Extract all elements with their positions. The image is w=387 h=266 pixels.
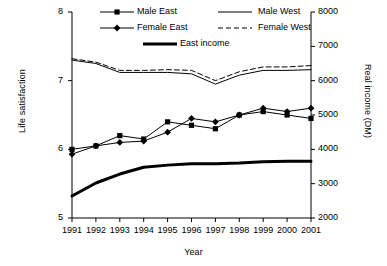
legend-label-male-east: Male East: [137, 6, 177, 16]
data-point-square: [308, 116, 313, 121]
y-tick-label-right: 4000: [318, 143, 362, 153]
y-tick-label-right: 6000: [318, 75, 362, 85]
legend-label-male-west: Male West: [258, 6, 300, 16]
data-point-square: [117, 133, 122, 138]
legend-label-female-east: Female East: [137, 22, 188, 32]
data-point-square: [189, 123, 194, 128]
data-point-square: [165, 119, 170, 124]
y-tick-label-right: 3000: [318, 178, 362, 188]
series-line-female-west: [72, 59, 311, 81]
y-tick-label-right: 8000: [318, 6, 362, 16]
x-tick-label: 2001: [294, 225, 328, 235]
data-point-diamond: [188, 115, 195, 122]
data-point-square: [213, 126, 218, 131]
series-line-male-west: [72, 60, 311, 84]
y-tick-label-left: 6: [23, 143, 63, 153]
y-tick-label-right: 5000: [318, 109, 362, 119]
legend-label-east-income: East income: [180, 38, 230, 48]
y-tick-label-left: 8: [23, 6, 63, 16]
data-point-diamond: [114, 25, 121, 32]
y-tick-label-right: 2000: [318, 212, 362, 222]
data-point-diamond: [164, 129, 171, 136]
data-point-diamond: [116, 139, 123, 146]
y-tick-label-right: 7000: [318, 40, 362, 50]
data-point-square: [114, 9, 119, 14]
chart-container: Life satisfaction Real income (DM) Year …: [0, 0, 387, 266]
legend-label-female-west: Female West: [258, 22, 311, 32]
data-point-diamond: [308, 105, 315, 112]
series-line-east-income: [72, 161, 311, 196]
y-tick-label-left: 7: [23, 75, 63, 85]
data-point-diamond: [212, 118, 219, 125]
y-tick-label-left: 5: [23, 212, 63, 222]
